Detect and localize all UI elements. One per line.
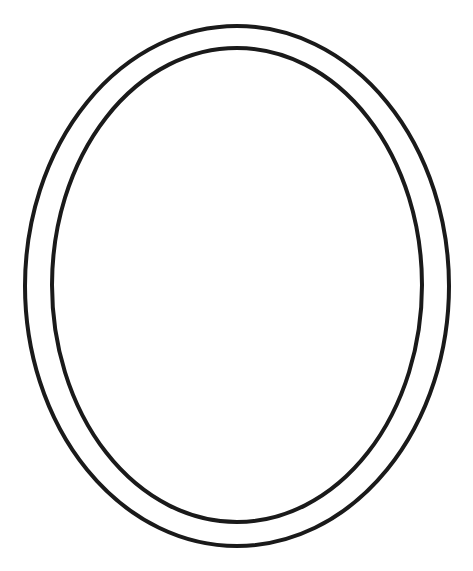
outer-oval-outline (25, 26, 449, 546)
oval-frame-drawing (0, 0, 473, 571)
inner-oval-outline (52, 48, 422, 522)
